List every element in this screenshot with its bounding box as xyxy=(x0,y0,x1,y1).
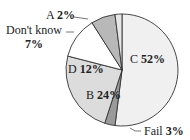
pie-slice-c xyxy=(115,14,178,126)
label-d: D 12% xyxy=(68,63,104,76)
label-c: C 52% xyxy=(130,53,165,66)
label-fail: Fail 3% xyxy=(144,125,184,138)
leader-line-fail xyxy=(130,128,141,131)
leader-line-a xyxy=(74,17,88,19)
label-a: A 2% xyxy=(46,9,75,22)
label-dont-know-pct: 7% xyxy=(25,38,43,51)
label-dont-know: Don't know xyxy=(6,24,62,37)
label-b: B 24% xyxy=(86,89,121,102)
